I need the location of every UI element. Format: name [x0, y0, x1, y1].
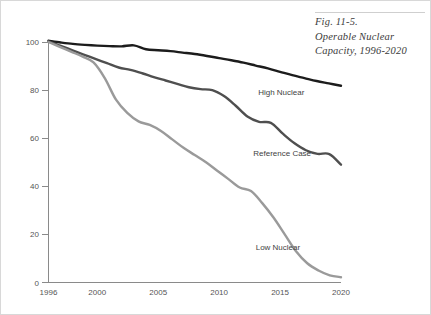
y-tick-group: 020406080100: [26, 38, 49, 288]
x-tick-label: 2005: [149, 288, 167, 297]
x-tick-label: 1996: [40, 288, 58, 297]
y-tick-label: 40: [30, 182, 39, 191]
series-group: [49, 41, 342, 277]
x-axis: 199620002005201020152020: [40, 283, 351, 298]
y-tick-label: 0: [35, 279, 40, 288]
nuclear-capacity-line-chart: 020406080100 199620002005201020152020 Hi…: [1, 1, 431, 315]
x-tick-label: 2015: [271, 288, 289, 297]
series-label-group: High NuclearReference CaseLow Nuclear: [253, 88, 311, 252]
x-tick-label: 2010: [210, 288, 228, 297]
series-label: High Nuclear: [258, 88, 305, 97]
y-tick-label: 80: [30, 86, 39, 95]
series-label: Reference Case: [253, 149, 311, 158]
x-tick-group: 199620002005201020152020: [40, 288, 351, 297]
series-line: [49, 41, 342, 164]
y-tick-label: 100: [26, 38, 40, 47]
y-tick-label: 60: [30, 134, 39, 143]
y-axis: 020406080100: [26, 38, 49, 288]
figure-page: Fig. 11-5. Operable Nuclear Capacity, 19…: [0, 0, 431, 315]
x-tick-label: 2020: [332, 288, 350, 297]
y-tick-label: 20: [30, 230, 39, 239]
series-label: Low Nuclear: [256, 243, 301, 252]
x-tick-label: 2000: [88, 288, 106, 297]
series-line: [49, 41, 342, 86]
